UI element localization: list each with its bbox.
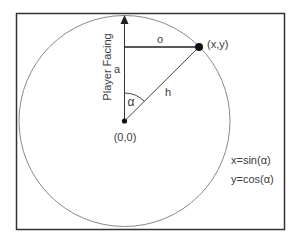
unit-circle-diagram: Player Facing a o h α (0,0) (x,y) x=sin(… xyxy=(0,0,298,243)
hypotenuse-line xyxy=(125,47,200,121)
origin-point xyxy=(122,118,127,123)
player-facing-label: Player Facing xyxy=(101,33,113,100)
arrow-up-icon xyxy=(121,15,129,24)
hypotenuse-label: h xyxy=(165,86,171,98)
equation-x: x=sin(α) xyxy=(231,154,271,166)
angle-label: α xyxy=(128,95,135,109)
point-label: (x,y) xyxy=(207,38,228,50)
opposite-label: o xyxy=(157,33,163,45)
origin-label: (0,0) xyxy=(114,131,137,143)
adjacent-label: a xyxy=(114,63,121,75)
diagram-frame xyxy=(17,14,285,230)
facing-point xyxy=(195,43,203,51)
equation-y: y=cos(α) xyxy=(231,173,274,185)
